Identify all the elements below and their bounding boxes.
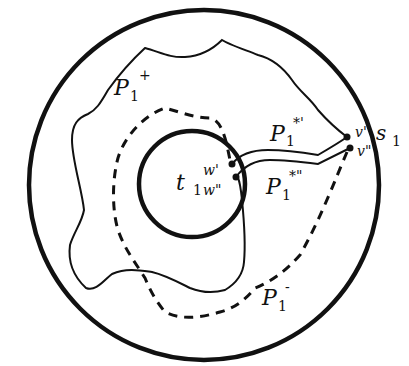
path-diagram: P 1 + P 1 *' P 1 *" P 1 - t 1 w' w" v' v… <box>0 0 409 366</box>
label-v-dprime: v" <box>357 143 371 159</box>
label-w-dprime: w" <box>203 182 221 198</box>
label-P1-minus-sup: - <box>285 279 290 295</box>
label-P1-minus: P <box>261 285 278 310</box>
label-P1-star-prime-sub: 1 <box>286 133 295 149</box>
label-s1-sub: 1 <box>392 133 401 149</box>
label-P1-star-prime: P <box>269 121 286 146</box>
label-P1-plus-sub: 1 <box>130 88 139 104</box>
v-dprime-point <box>347 145 354 152</box>
inner-hole-circle <box>139 131 245 237</box>
label-P1-star-dprime: P <box>265 174 282 199</box>
label-P1-star-prime-sup: *' <box>293 115 304 131</box>
label-P1-plus: P <box>113 75 130 100</box>
label-t1: t <box>176 170 185 195</box>
label-P1-minus-sub: 1 <box>278 298 287 314</box>
label-w-prime: w' <box>203 162 219 178</box>
label-P1-star-dprime-sup: *" <box>289 168 302 184</box>
label-v-prime: v' <box>355 124 367 140</box>
w-prime-point <box>229 161 236 168</box>
label-P1-plus-sup: + <box>139 67 151 83</box>
label-P1-star-dprime-sub: 1 <box>282 187 291 203</box>
v-prime-point <box>344 134 351 141</box>
label-s1: s <box>376 121 386 145</box>
label-t1-sub: 1 <box>193 182 202 198</box>
w-dprime-point <box>233 174 240 181</box>
